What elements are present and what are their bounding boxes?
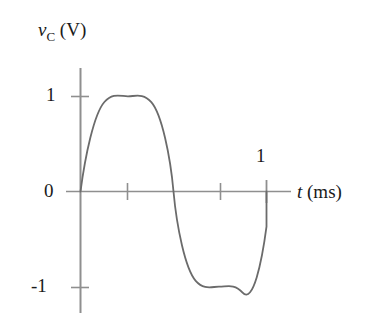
sine-curve [81, 96, 267, 295]
y-tick-label-zero: 0 [44, 181, 54, 200]
x-axis-label-symbol: t [297, 181, 302, 202]
x-axis-label-units: (ms) [307, 181, 342, 202]
plot-canvas [0, 0, 379, 326]
sine-waveform-figure: vC (V) t (ms) 1 0 -1 1 [0, 0, 379, 326]
x-axis-label: t (ms) [297, 182, 342, 201]
y-tick-label-negative-one: -1 [31, 276, 47, 295]
y-tick-label-positive-one: 1 [46, 85, 56, 104]
x-tick-label-one: 1 [256, 146, 266, 165]
y-axis-label-subscript: C [46, 29, 55, 44]
y-axis-label: vC (V) [38, 20, 86, 43]
y-axis-label-units: (V) [60, 19, 86, 40]
